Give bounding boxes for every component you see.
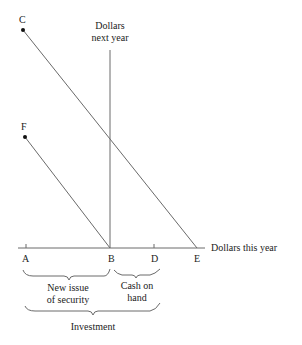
point-c-dot — [21, 28, 25, 32]
new-issue-line1: New issue — [36, 282, 100, 294]
point-e-label: E — [194, 253, 200, 265]
cash-line1: Cash on — [114, 280, 160, 292]
cash-on-hand-label: Cash on hand — [114, 280, 160, 304]
point-d-label: D — [151, 253, 158, 265]
point-f-dot — [23, 135, 27, 139]
investment-label: Investment — [68, 321, 118, 333]
point-a-label: A — [22, 253, 29, 265]
point-b-label: B — [108, 253, 115, 265]
vertical-axis-label-line2: next year — [88, 32, 132, 44]
line-f-b — [25, 137, 110, 248]
cash-line2: hand — [114, 292, 160, 304]
brace-new-issue — [23, 269, 110, 280]
horizontal-axis-label: Dollars this year — [211, 242, 277, 254]
point-f-label: F — [21, 121, 27, 133]
new-issue-label: New issue of security — [36, 282, 100, 306]
point-c-label: C — [19, 14, 26, 26]
new-issue-line2: of security — [36, 294, 100, 306]
vertical-axis-label-line1: Dollars — [88, 20, 132, 32]
brace-cash — [114, 269, 160, 278]
vertical-axis-label: Dollars next year — [88, 20, 132, 44]
